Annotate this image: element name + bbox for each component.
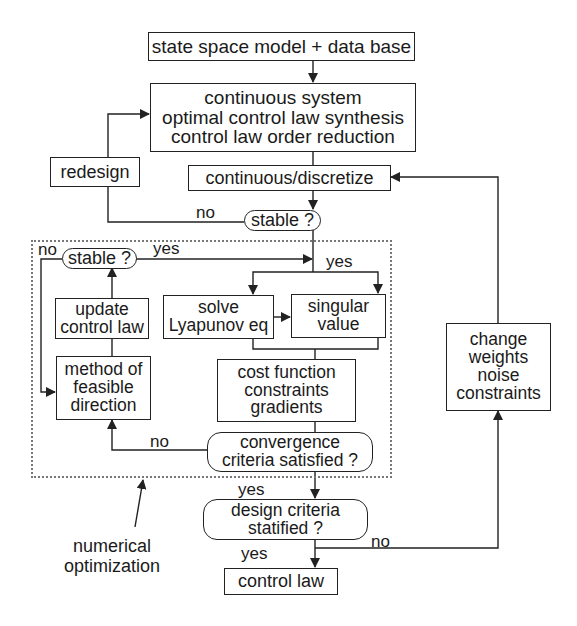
node-text: statified ? [248, 520, 323, 538]
state-space-model-box: state space model + data base [148, 32, 415, 61]
node-text: stable ? [68, 249, 131, 267]
node-text: state space model + data base [152, 37, 411, 56]
cost-function-box: cost function constraints gradients [217, 359, 356, 422]
node-text: constraints [456, 385, 541, 403]
node-text: continuous system [204, 88, 361, 107]
synthesis-box: continuous system optimal control law sy… [150, 83, 416, 152]
lyapunov-box: solve Lyapunov eq [163, 295, 274, 339]
group-label-line: optimization [64, 557, 160, 577]
inner-yes-label: yes [153, 240, 179, 257]
design-no-label: no [371, 533, 390, 550]
node-text: continuous/discretize [205, 169, 373, 187]
node-text: Lyapunov eq [169, 317, 269, 335]
node-text: criteria satisfied ? [222, 452, 358, 470]
node-text: stable ? [251, 211, 314, 229]
node-text: update [75, 301, 129, 319]
node-text: design criteria [231, 502, 340, 520]
stable-inner-decision: stable ? [62, 248, 137, 269]
node-text: control law order reduction [171, 127, 395, 146]
singular-value-box: singular value [291, 294, 386, 338]
convergence-yes-label: yes [238, 481, 264, 498]
change-weights-box: change weights noise constraints [446, 323, 551, 411]
design-yes-label: yes [241, 545, 267, 562]
node-text: control law [238, 572, 324, 590]
stable-outer-decision: stable ? [244, 210, 321, 231]
node-text: redesign [60, 163, 129, 181]
group-label-line: numerical [64, 537, 160, 557]
inner-no-label: no [38, 241, 57, 258]
control-law-box: control law [224, 568, 338, 595]
node-text: optimal control law synthesis [162, 108, 404, 127]
numerical-optimization-label: numerical optimization [64, 537, 160, 577]
discretize-box: continuous/discretize [188, 165, 391, 191]
redesign-box: redesign [50, 157, 140, 187]
node-text: direction [70, 397, 136, 415]
outer-yes-label: yes [326, 253, 352, 270]
convergence-no-label: no [150, 433, 169, 450]
node-text: gradients [251, 399, 323, 417]
update-control-law-box: update control law [55, 298, 149, 339]
design-criteria-decision: design criteria statified ? [203, 499, 368, 540]
node-text: cost function [237, 364, 335, 382]
feasible-direction-box: method of feasible direction [56, 356, 151, 420]
node-text: value [318, 316, 360, 334]
convergence-decision: convergence criteria satisfied ? [207, 432, 373, 472]
node-text: control law [60, 319, 144, 337]
outer-no-label: no [196, 204, 215, 221]
